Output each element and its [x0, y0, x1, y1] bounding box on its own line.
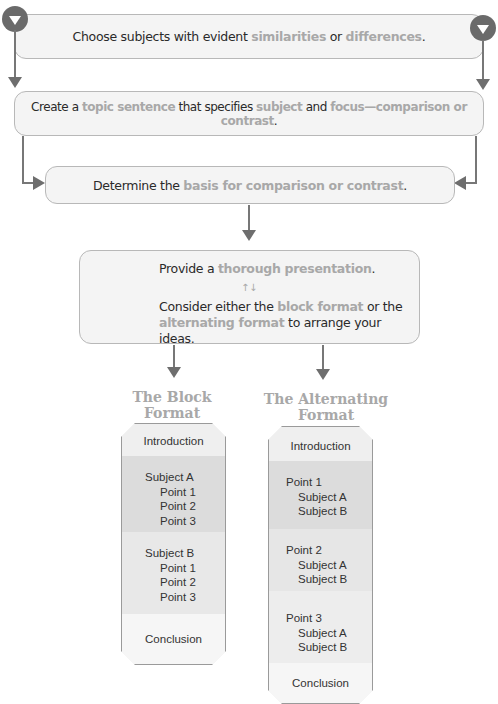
block-title-line1: The Block: [112, 389, 232, 405]
step2-text-and: and: [302, 100, 330, 114]
alternating-point3: Point 3 Subject A Subject B: [269, 591, 372, 663]
block-b-point3: Point 3: [145, 590, 225, 605]
arrow-down-icon: [8, 77, 22, 88]
step4-text-or: or the: [363, 299, 402, 314]
step-basis: Determine the basis for comparison or co…: [45, 166, 455, 204]
swap-arrows-icon: ↑↓: [241, 280, 419, 296]
step1-text: Choose subjects with evident: [73, 29, 252, 44]
alternating-conclusion: Conclusion: [269, 663, 372, 703]
step1-period: .: [422, 29, 426, 44]
alternating-point1: Point 1 Subject A Subject B: [269, 461, 372, 529]
step4-period: .: [372, 261, 376, 276]
alt-p2-subject-a: Subject A: [286, 558, 372, 573]
step4-line3: alternating format to arrange your ideas…: [159, 315, 419, 347]
arrow-right-icon: [33, 176, 45, 190]
alternating-point2: Point 2 Subject A Subject B: [269, 529, 372, 591]
block-a-point3: Point 3: [145, 514, 225, 529]
alternating-format-column: Introduction Point 1 Subject A Subject B…: [268, 426, 373, 704]
connector-right-1: [482, 40, 484, 80]
step3-period: .: [403, 178, 407, 193]
alt-point3-label: Point 3: [286, 611, 372, 626]
block-intro: Introduction: [122, 424, 225, 456]
block-subject-a-label: Subject A: [145, 470, 225, 485]
block-a-point1: Point 1: [145, 485, 225, 500]
start-marker-left-icon: [2, 6, 28, 32]
step1-text-or: or: [326, 29, 346, 44]
highlight-differences: differences: [346, 29, 422, 44]
step3-text: Determine the: [93, 178, 183, 193]
block-b-point1: Point 1: [145, 561, 225, 576]
block-title-line2: Format: [112, 405, 232, 421]
connector-left-1: [14, 30, 16, 78]
block-conclusion: Conclusion: [122, 614, 225, 664]
step4-text-consider: Consider either the: [159, 299, 277, 314]
step-choose-subjects: Choose subjects with evident similaritie…: [14, 14, 484, 59]
step4-line1: Provide a thorough presentation.: [159, 261, 419, 277]
step4-text-provide: Provide a: [159, 261, 218, 276]
alt-p3-subject-b: Subject B: [286, 640, 372, 655]
highlight-similarities: similarities: [251, 29, 326, 44]
block-subject-b-label: Subject B: [145, 546, 225, 561]
alternating-title-line1: The Alternating: [258, 391, 394, 407]
connector-alternating: [322, 345, 324, 370]
connector-right-2: [475, 136, 477, 183]
block-b-point2: Point 2: [145, 575, 225, 590]
highlight-subject: subject: [256, 100, 302, 114]
block-format-title: The Block Format: [112, 389, 232, 421]
step-presentation: Provide a thorough presentation. ↑↓ Cons…: [79, 250, 420, 344]
alt-p1-subject-a: Subject A: [286, 490, 372, 505]
arrow-left-icon: [454, 176, 466, 190]
arrow-down-icon: [167, 367, 181, 378]
connector-left-2: [22, 136, 24, 183]
block-format-column: Introduction Subject A Point 1 Point 2 P…: [121, 423, 226, 665]
step4-line2: Consider either the block format or the: [159, 299, 419, 315]
highlight-basis: basis for comparison or contrast: [183, 178, 403, 193]
alternating-format-title: The Alternating Format: [258, 391, 394, 423]
block-subject-b: Subject B Point 1 Point 2 Point 3: [122, 532, 225, 614]
alternating-intro: Introduction: [269, 427, 372, 461]
connector-center: [248, 205, 250, 231]
step2-text-specifies: that specifies: [175, 100, 256, 114]
start-marker-right-icon: [470, 15, 496, 41]
step2-text: Create a: [31, 100, 82, 114]
alternating-title-line2: Format: [258, 407, 394, 423]
highlight-topic-sentence: topic sentence: [82, 100, 175, 114]
highlight-thorough-presentation: thorough presentation: [218, 261, 372, 276]
step-topic-sentence: Create a topic sentence that specifies s…: [14, 91, 484, 136]
arrow-down-icon: [242, 230, 256, 241]
alt-point1-label: Point 1: [286, 475, 372, 490]
block-a-point2: Point 2: [145, 499, 225, 514]
block-subject-a: Subject A Point 1 Point 2 Point 3: [122, 456, 225, 532]
step2-period: .: [274, 114, 277, 128]
connector-right-2h: [465, 182, 477, 184]
arrow-down-icon: [476, 79, 490, 90]
alt-p2-subject-b: Subject B: [286, 572, 372, 587]
highlight-block-format: block format: [277, 299, 363, 314]
alt-p1-subject-b: Subject B: [286, 504, 372, 519]
arrow-down-icon: [316, 369, 330, 380]
alt-point2-label: Point 2: [286, 543, 372, 558]
connector-block: [173, 345, 175, 369]
highlight-alternating-format: alternating format: [159, 315, 284, 330]
alt-p3-subject-a: Subject A: [286, 626, 372, 641]
